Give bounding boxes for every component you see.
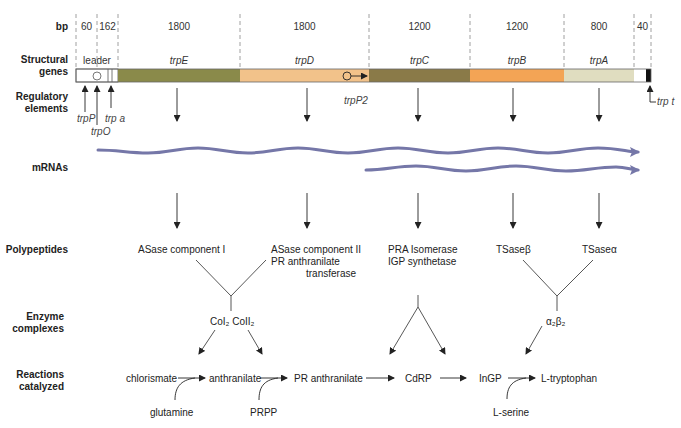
metabolite-tryptophan: L-tryptophan [541,373,597,385]
gene-bar [76,69,651,82]
bp-value: 1800 [118,21,240,32]
polypeptide-asase-2: ASase component II PR anthranilate trans… [271,244,361,280]
label-reactions-catalyzed: Reactions catalyzed [0,369,64,393]
segment-trpA [564,69,634,82]
segment-spacer [634,69,646,82]
gene-label-trpB: trpB [470,55,564,66]
polypeptide-pra-igp: PRA Isomerase IGP synthetase [388,244,457,268]
segment-trpD [240,69,369,82]
bp-value: 60 [76,21,97,32]
label-trpP: trpP [77,113,95,124]
metabolite-pr-anthranilate: PR anthranilate [294,373,363,385]
gene-label-trpC: trpC [369,55,470,66]
gene-label-trpE: trpE [118,55,240,66]
substrate-glutamine: glutamine [150,407,193,419]
bp-value: 1200 [369,21,470,32]
segment-terminator [646,69,651,82]
label-structural-genes: Structural genes [0,54,68,78]
label-polypeptides: Polypeptides [0,244,68,256]
bp-value: 162 [97,21,118,32]
metabolite-ingp: InGP [479,373,502,385]
mrna-partial [366,166,638,171]
substrate-serine: L-serine [493,407,529,419]
label-trp-a: trp a [105,113,125,124]
gene-label-trpA: trpA [564,55,634,66]
metabolite-cdrp: CdRP [405,373,432,385]
bp-value: 1200 [470,21,564,32]
complex-alpha2beta2: α₂β₂ [546,316,565,328]
gene-down-arrows [177,88,599,121]
polypeptide-asase-1: ASase component I [138,244,225,256]
metabolite-anthranilate: anthranilate [209,373,261,385]
polypeptide-tsase-beta: TSaseβ [496,244,531,256]
regulatory-arrows [85,86,656,125]
label-trp-t: trp t [657,96,674,107]
gene-label-leader: leader [76,55,118,66]
segment-trpB [470,69,564,82]
operator-circle [93,72,101,80]
substrate-prpp: PRPP [250,407,277,419]
bp-value: 1800 [240,21,369,32]
label-trpP2: trpP2 [344,95,368,106]
label-enzyme-complexes: Enzyme complexes [0,311,64,335]
mrna-full [98,148,638,153]
gene-label-trpD: trpD [240,55,369,66]
label-mrnas: mRNAs [0,162,68,174]
segment-trpE [118,69,240,82]
label-trpO: trpO [91,126,110,137]
bp-value: 800 [564,21,634,32]
label-bp: bp [20,21,68,33]
metabolite-chorismate: chlorismate [126,373,177,385]
mrna-waves [98,148,638,171]
complex-col: CoI₂ CoII₂ [210,316,254,328]
catalysis-arrows [199,307,542,354]
segment-trpC [369,69,470,82]
bp-value: 40 [634,21,651,32]
translation-arrows [177,193,599,228]
polypeptide-tsase-alpha: TSaseα [582,244,617,256]
label-regulatory-elements: Regulatory elements [0,91,68,115]
